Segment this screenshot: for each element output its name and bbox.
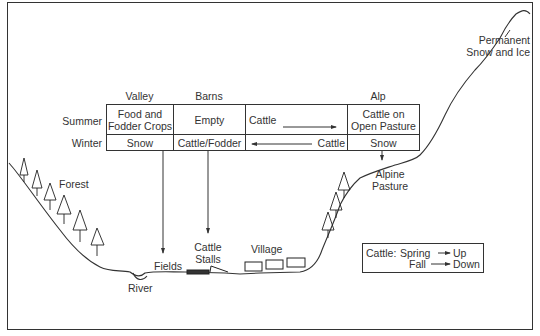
label-line: Cattle	[190, 241, 226, 253]
row-label-winter: Winter	[50, 137, 102, 149]
label-fields: Fields	[154, 260, 182, 272]
label-cattle-stalls: Cattle Stalls	[190, 241, 226, 265]
season-location-table: Food and Fodder Crops Empty Cattle Cattl…	[106, 104, 420, 151]
label-alpine-pasture: Alpine Pasture	[368, 168, 412, 192]
cell-winter-valley: Snow	[107, 135, 174, 151]
label-river: River	[128, 282, 153, 294]
movement-label: Cattle	[249, 114, 276, 126]
cell-summer-alp: Cattle on Open Pasture	[348, 105, 420, 135]
slope-trees-icon	[322, 172, 350, 238]
legend-fall: Fall	[409, 258, 426, 270]
column-header-alp: Alp	[342, 90, 414, 102]
cell-summer-movement: Cattle	[246, 105, 348, 135]
forest-trees-icon	[20, 158, 104, 256]
row-label-summer: Summer	[50, 115, 102, 127]
cell-winter-movement: Cattle	[246, 135, 348, 151]
cell-text: Open Pasture	[348, 120, 419, 132]
column-header-valley: Valley	[106, 90, 173, 102]
legend: Cattle: Spring Up Fall Down	[362, 243, 484, 273]
label-village: Village	[251, 243, 282, 255]
cell-winter-barns: Cattle/Fodder	[174, 135, 246, 151]
column-header-barns: Barns	[173, 90, 245, 102]
label-forest: Forest	[59, 178, 89, 190]
cell-text: Food and	[107, 108, 173, 120]
label-line: Pasture	[368, 180, 412, 192]
label-line: Permanent	[450, 34, 530, 46]
label-line: Alpine	[368, 168, 412, 180]
cell-winter-alp: Snow	[348, 135, 420, 151]
label-line: Snow and Ice	[450, 46, 530, 58]
cell-summer-barns: Empty	[174, 105, 246, 135]
cell-text: Cattle on	[348, 108, 419, 120]
movement-label: Cattle	[318, 137, 345, 149]
village-houses-icon	[245, 258, 305, 271]
legend-prefix: Cattle:	[366, 247, 396, 259]
label-permanent-snow: Permanent Snow and Ice	[450, 34, 530, 58]
cell-summer-valley: Food and Fodder Crops	[107, 105, 174, 135]
legend-down: Down	[453, 258, 480, 270]
label-line: Stalls	[190, 253, 226, 265]
cell-text: Fodder Crops	[107, 120, 173, 132]
